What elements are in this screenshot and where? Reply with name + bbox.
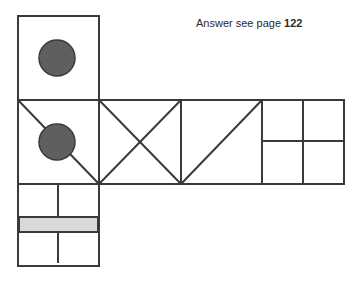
single-diagonal bbox=[181, 100, 262, 184]
gray-band bbox=[19, 217, 98, 232]
circle-top bbox=[39, 40, 75, 76]
circle-left bbox=[39, 124, 75, 160]
cube-net-diagram bbox=[0, 0, 364, 284]
